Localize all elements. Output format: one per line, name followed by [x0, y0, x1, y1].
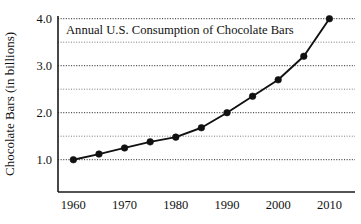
- x-tick-labels-group: 196019701980199020002010: [61, 198, 342, 212]
- y-tick-label: 4.0: [36, 12, 52, 26]
- x-tick-label: 1980: [163, 198, 188, 212]
- chart-figure: 1.02.03.04.0 196019701980199020002010 An…: [0, 0, 361, 224]
- x-tick-label: 1990: [214, 198, 239, 212]
- consumption-line-chart: 1.02.03.04.0 196019701980199020002010 An…: [0, 0, 361, 224]
- data-point: [300, 53, 307, 60]
- y-tick-labels-group: 1.02.03.04.0: [36, 12, 52, 167]
- x-tick-label: 1960: [61, 198, 86, 212]
- data-point: [121, 145, 128, 152]
- x-tick-label: 2000: [266, 198, 291, 212]
- data-point: [172, 134, 179, 141]
- y-tick-label: 2.0: [36, 106, 52, 120]
- y-axis-title: Chocolate Bars (in billions): [2, 32, 17, 176]
- data-point: [275, 77, 282, 84]
- data-point: [224, 109, 231, 116]
- y-tick-label: 1.0: [36, 153, 52, 167]
- data-point: [70, 156, 77, 163]
- data-point: [147, 139, 154, 146]
- data-point: [96, 151, 103, 158]
- data-point: [198, 124, 205, 131]
- data-point: [326, 15, 333, 22]
- x-tick-label: 1970: [112, 198, 137, 212]
- y-tick-label: 3.0: [36, 59, 52, 73]
- chart-title: Annual U.S. Consumption of Chocolate Bar…: [66, 23, 294, 37]
- x-tick-label: 2010: [317, 198, 342, 212]
- data-point: [249, 93, 256, 100]
- gridlines-group: [58, 19, 355, 160]
